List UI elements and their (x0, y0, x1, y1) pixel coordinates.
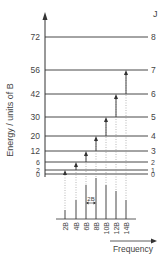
frequency-arrow-icon (151, 239, 157, 244)
j-value-label: 8 (151, 32, 156, 42)
j-value-label: 2 (151, 159, 155, 166)
j-value-label: 5 (151, 112, 156, 122)
energy-value-label: 42 (31, 89, 41, 99)
j-header: J (153, 9, 158, 19)
spectral-line-label: 8B (93, 222, 100, 231)
j-value-label: 6 (151, 89, 156, 99)
arrow-head-icon (104, 117, 108, 122)
spectral-line-label: 2B (62, 222, 69, 231)
spectral-line-label: 10B (103, 222, 110, 235)
x-axis-label: Frequency (113, 244, 154, 254)
arrow-head-icon (74, 162, 78, 167)
energy-value-label: 30 (31, 112, 41, 122)
energy-value-label: 6 (36, 159, 40, 166)
energy-value-label: 56 (31, 65, 41, 75)
spectral-line-label: 14B (123, 222, 130, 235)
j-value-label: 4 (151, 131, 156, 141)
energy-value-label: 12 (31, 146, 41, 156)
spacing-label: 2B (87, 196, 94, 202)
arrow-head-icon (94, 136, 98, 141)
spectrum: 2B4B6B8B10B12B14B (62, 178, 130, 234)
arrow-head-icon (124, 70, 128, 75)
energy-levels: 002162123204305426567728 (31, 32, 156, 178)
spectral-line-label: 12B (113, 222, 120, 235)
y-axis-arrow-icon (43, 12, 48, 20)
arrow-head-icon (63, 170, 67, 175)
energy-value-label: 2 (36, 167, 40, 174)
arrow-head-icon (84, 151, 88, 156)
j-value-label: 7 (151, 65, 156, 75)
j-value-label: 1 (151, 167, 155, 174)
j-value-label: 3 (151, 146, 156, 156)
spectral-line-label: 4B (73, 222, 80, 231)
y-axis-label: Energy / units of B (5, 83, 15, 157)
spectral-line-label: 6B (83, 222, 90, 231)
rotational-energy-level-diagram: 002162123204305426567728 2B4B6B8B10B12B1… (0, 0, 167, 266)
energy-value-label: 72 (31, 32, 41, 42)
energy-value-label: 20 (31, 131, 41, 141)
arrow-head-icon (114, 94, 118, 99)
